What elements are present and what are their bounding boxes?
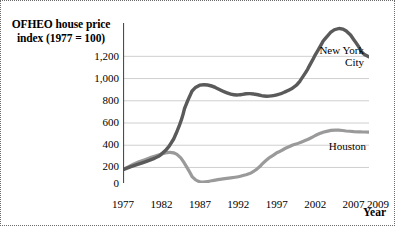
x-tick-label: 1997 bbox=[255, 199, 299, 210]
series-label-houston: Houston bbox=[296, 140, 366, 152]
x-tick-label: 1982 bbox=[139, 199, 183, 210]
x-axis-title: Year bbox=[363, 206, 386, 218]
x-tick-label: 1992 bbox=[216, 199, 260, 210]
x-tick-label: 1977 bbox=[101, 199, 145, 210]
series-label-nyc-line1: New York bbox=[319, 44, 364, 56]
x-tick-label: 1987 bbox=[178, 199, 222, 210]
series-label-new-york-city: New York City bbox=[290, 44, 364, 68]
x-tick-label: 2002 bbox=[293, 199, 337, 210]
x-tick-labels: 1977 1982 1987 1992 1997 2002 2007 2009 bbox=[1, 1, 395, 226]
series-label-nyc-line2: City bbox=[345, 56, 364, 68]
chart-figure: OFHEO house price index (1977 = 100) 1,2… bbox=[0, 0, 395, 226]
